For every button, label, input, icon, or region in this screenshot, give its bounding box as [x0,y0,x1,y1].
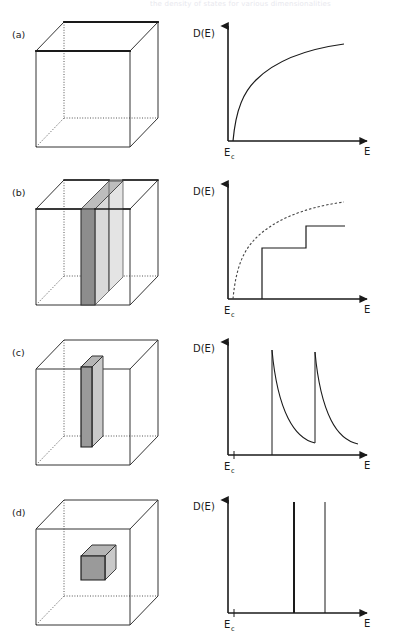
ec-main: E [224,461,230,472]
panel-c-quantum-wire-diagram [36,340,158,465]
dos-curve-2d-staircase [262,226,345,299]
panel-b-x-axis-label: E [364,304,370,315]
panel-c-label: (c) [12,347,25,358]
panel-c-dos-plot: D(E) E E c [193,342,370,475]
panel-a-x-axis-label: E [364,146,370,157]
panel-b-label: (b) [12,187,25,198]
panel-d-quantum-dot-diagram [36,500,158,625]
quantum-dot-cube [81,545,116,580]
ec-main: E [224,147,230,158]
quantum-well-slab [81,181,123,305]
ec-subscript: c [231,311,235,319]
quantum-wire-prism [81,356,103,447]
wire-side-face [92,356,103,447]
panel-d-ec-label: E c [224,619,235,633]
dos-curve-3d-sqrt [233,44,344,141]
panel-a-label: (a) [12,29,25,40]
ec-main: E [224,305,230,316]
dos-curve-3d-reference-dashed [233,202,344,299]
cube-top-highlight-edges [36,22,158,51]
panel-d-label: (d) [12,507,25,518]
panel-d: (d) [12,500,370,633]
ec-subscript: c [231,625,235,633]
panel-c: (c) [12,340,370,475]
slab-depth-face [109,181,123,291]
panel-b: (b) [12,180,370,319]
wire-front-face [81,367,92,447]
panel-a: (a) D(E) [12,22,370,161]
panel-b-ec-label: E c [224,305,235,319]
dot-front-face [81,556,105,580]
dos-1d-peak-1-decay [272,350,315,443]
cube-visible-edges [36,22,158,147]
panel-d-y-axis-label: D(E) [193,501,215,512]
panel-d-dos-plot: D(E) E E c [193,500,370,633]
slab-right-face [95,195,109,305]
ec-main: E [224,619,230,630]
ec-subscript: c [231,467,235,475]
panel-b-quantum-well-diagram [36,180,158,305]
panel-b-y-axis-label: D(E) [193,186,215,197]
panel-a-ec-label: E c [224,147,235,161]
panel-c-y-axis-label: D(E) [193,343,215,354]
panel-b-dos-plot: D(E) E E c [193,184,370,319]
ec-subscript: c [231,153,235,161]
panel-c-x-axis-label: E [364,460,370,471]
panel-a-y-axis-label: D(E) [193,28,215,39]
panel-a-bulk-cube-diagram [36,22,158,147]
density-of-states-figure: (a) D(E) [0,0,394,638]
dos-1d-peak-2-decay [315,352,358,444]
panel-d-x-axis-label: E [364,618,370,629]
panel-c-ec-label: E c [224,461,235,475]
slab-front-face [81,209,95,305]
panel-a-dos-plot: D(E) E E c [193,26,370,161]
